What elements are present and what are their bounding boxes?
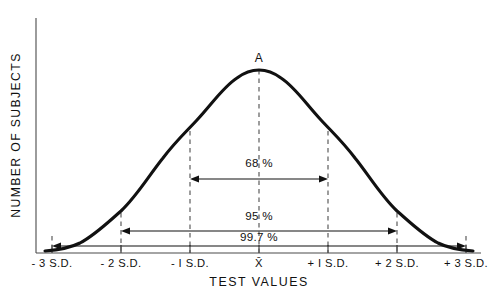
annotation-68-label: 68 %	[245, 156, 273, 169]
annotation-997-percent: 99.7 %	[52, 230, 466, 249]
annotation-95-label: 95 %	[245, 209, 273, 222]
x-axis-title: TEST VALUES	[209, 275, 308, 289]
annotation-95-arrow-head-right	[388, 228, 397, 235]
annotation-997-label: 99.7 %	[240, 230, 278, 243]
x-tick-label-plus3sd: + 3 S.D.	[444, 257, 488, 269]
x-tick-label-minus2sd: - 2 S.D.	[100, 257, 141, 269]
annotation-68-arrow-head-left	[190, 176, 199, 183]
annotation-68-arrow-head-right	[319, 176, 328, 183]
x-tick-label-plus1sd: + I S.D.	[308, 257, 349, 269]
y-axis-title: NUMBER OF SUBJECTS	[9, 52, 23, 217]
distribution-chart-svg: A 68 % 95 % 99.7 % - 3 S.D. - 2 S.D. - I…	[0, 0, 499, 296]
normal-distribution-figure: A 68 % 95 % 99.7 % - 3 S.D. - 2 S.D. - I…	[0, 0, 499, 296]
x-tick-label-plus2sd: + 2 S.D.	[375, 257, 419, 269]
x-tick-label-mean: X̄	[255, 257, 263, 269]
annotation-95-arrow-head-left	[121, 228, 130, 235]
annotation-68-percent: 68 %	[190, 156, 328, 182]
peak-label: A	[255, 51, 264, 65]
x-tick-label-minus3sd: - 3 S.D.	[31, 257, 72, 269]
x-tick-label-minus1sd: - I S.D.	[171, 257, 209, 269]
x-axis-tick-labels: - 3 S.D. - 2 S.D. - I S.D. X̄ + I S.D. +…	[31, 257, 488, 269]
